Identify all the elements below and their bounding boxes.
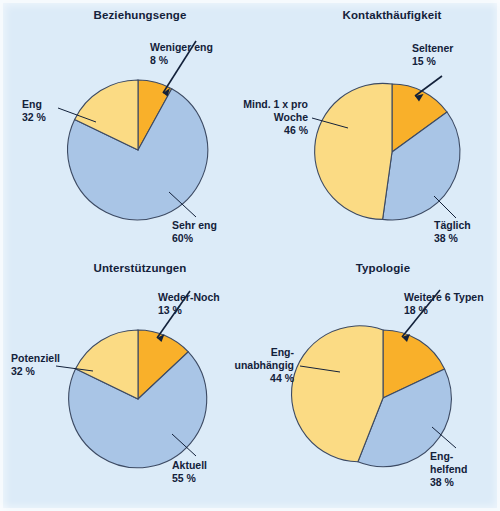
pie-label-taeglich-value: 38 % — [434, 232, 471, 245]
pie-label-eng-value: 32 % — [22, 111, 46, 124]
figure-canvas: Beziehungsenge — [0, 0, 500, 511]
pie-label-weder-noch: Weder-Noch 13 % — [158, 291, 220, 317]
pie-label-taeglich: Täglich 38 % — [434, 219, 471, 245]
pie-label-potenziell-value: 32 % — [11, 365, 60, 378]
pie-label-weder-noch-name: Weder-Noch — [158, 291, 220, 303]
pie-label-eng-helfend-value: 38 % — [430, 476, 467, 489]
pie-label-weniger-eng-name: Weniger eng — [150, 41, 213, 53]
pie-label-mind-1x-woche-name-line2: Woche — [218, 111, 308, 124]
pie-slice-kontakt-mind-1x-woche — [315, 83, 392, 219]
pie-label-eng: Eng 32 % — [22, 98, 46, 124]
pie-label-mind-1x-woche: Mind. 1 x pro Woche 46 % — [218, 98, 308, 137]
pie-label-sehr-eng: Sehr eng 60% — [172, 219, 217, 245]
leader-line-taeglich — [434, 196, 456, 218]
pie-label-weder-noch-value: 13 % — [158, 304, 220, 317]
pie-label-eng-unabhaengig-value: 44 % — [208, 372, 294, 385]
pie-label-eng-unabhaengig-name-line2: unabhängig — [208, 359, 294, 372]
pie-label-weniger-eng: Weniger eng 8 % — [150, 41, 213, 67]
pie-label-potenziell-name: Potenziell — [11, 352, 60, 364]
pie-graphics-layer — [0, 0, 500, 511]
pie-label-taeglich-name: Täglich — [434, 219, 471, 231]
pie-label-mind-1x-woche-name-line1: Mind. 1 x pro — [243, 98, 308, 110]
chart-title-typologie: Typologie — [303, 262, 463, 274]
pie-label-seltener-value: 15 % — [412, 55, 453, 68]
chart-title-kontakthaeufigkeit: Kontakthäufigkeit — [312, 9, 472, 21]
pie-label-weitere-6-typen-name: Weitere 6 Typen — [404, 291, 484, 303]
pie-label-mind-1x-woche-value: 46 % — [218, 124, 308, 137]
pie-label-eng-name: Eng — [22, 98, 42, 110]
pie-label-eng-helfend-name-line2: helfend — [430, 463, 467, 476]
pie-label-aktuell-name: Aktuell — [172, 459, 207, 471]
leader-line-seltener — [415, 76, 442, 96]
pie-label-aktuell-value: 55 % — [172, 472, 207, 485]
pie-label-weitere-6-typen: Weitere 6 Typen 18 % — [404, 291, 484, 317]
pie-label-weitere-6-typen-value: 18 % — [404, 304, 484, 317]
pie-label-seltener: Seltener 15 % — [412, 42, 453, 68]
chart-title-unterstuetzungen: Unterstützungen — [60, 262, 220, 274]
pie-label-sehr-eng-value: 60% — [172, 232, 217, 245]
pie-label-sehr-eng-name: Sehr eng — [172, 219, 217, 231]
pie-label-eng-helfend: Eng- helfend 38 % — [430, 450, 467, 489]
pie-label-aktuell: Aktuell 55 % — [172, 459, 207, 485]
pie-label-weniger-eng-value: 8 % — [150, 54, 213, 67]
pie-label-potenziell: Potenziell 32 % — [11, 352, 60, 378]
pie-label-eng-helfend-name-line1: Eng- — [430, 450, 453, 462]
pie-label-seltener-name: Seltener — [412, 42, 453, 54]
pie-label-eng-unabhaengig-name-line1: Eng- — [271, 346, 294, 358]
pie-label-eng-unabhaengig: Eng- unabhängig 44 % — [208, 346, 294, 385]
